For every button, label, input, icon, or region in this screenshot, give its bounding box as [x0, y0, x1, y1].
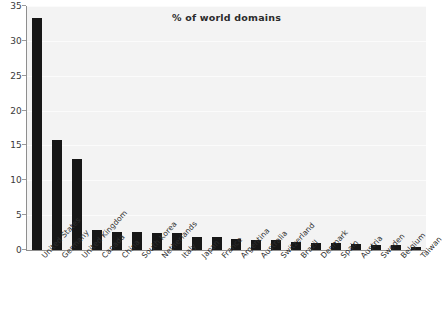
- y-axis-tick-label: 0: [0, 244, 22, 256]
- y-axis-tick-label: 25: [0, 70, 22, 82]
- y-axis-tick-label: 30: [0, 35, 22, 47]
- x-axis-category-labels: United StatesGermanyUnited KingdomCanada…: [27, 251, 428, 316]
- y-axis-tick-label: 35: [0, 0, 22, 12]
- y-axis-tick-label: 5: [0, 209, 22, 221]
- y-axis-tick-label: 15: [0, 139, 22, 151]
- y-axis: 05101520253035: [0, 0, 22, 316]
- y-axis-tick-label: 10: [0, 174, 22, 186]
- y-axis-tick-label: 20: [0, 105, 22, 117]
- plot-area: % of world domains: [27, 6, 426, 250]
- bars-group: [27, 6, 426, 250]
- bar: [32, 18, 42, 250]
